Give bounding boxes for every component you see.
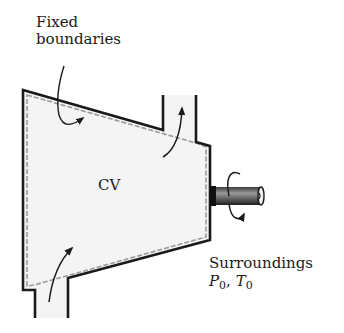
temperature-subscript: 0 [246,279,253,292]
fixed-boundaries-label: Fixed boundaries [36,14,121,48]
fixed-label-line2: boundaries [36,31,121,48]
pressure-symbol: P [209,272,219,290]
fixed-label-line1: Fixed [36,14,121,31]
rotating-shaft [210,186,264,206]
surroundings-label: Surroundings [209,255,313,272]
cv-label: CV [98,177,120,194]
separator: , [226,272,236,290]
temperature-symbol: T [236,272,246,290]
cv-fill [23,90,210,318]
control-volume-diagram [0,0,344,333]
surroundings-conditions: P0, T0 [209,273,253,292]
